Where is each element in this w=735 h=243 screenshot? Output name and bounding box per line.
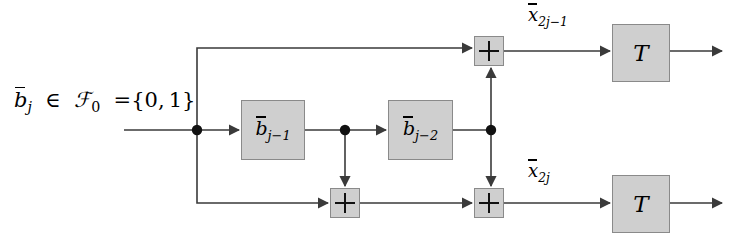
junction-after-delay-2 (486, 125, 496, 135)
adder-bottom-left (330, 188, 360, 218)
input-label: bj ∈ ℱ0 ={0, 1} (14, 88, 195, 115)
transform-block-bottom: T (612, 175, 670, 233)
delay-block-b-j-minus-2: bj−2 (388, 100, 453, 160)
adder-top-right (474, 36, 504, 66)
output-label-even: x2j (528, 160, 550, 185)
signal-flow-diagram: bj ∈ ℱ0 ={0, 1} bj−1 bj−2 x2j−1 x2j T T (0, 0, 735, 243)
delay-block-b-j-minus-1: bj−1 (241, 100, 305, 160)
transform-block-top: T (612, 24, 670, 82)
output-label-odd: x2j−1 (528, 4, 568, 29)
junction-after-delay-1 (340, 125, 350, 135)
junction-input-split (192, 125, 202, 135)
adder-bottom-right (474, 188, 504, 218)
